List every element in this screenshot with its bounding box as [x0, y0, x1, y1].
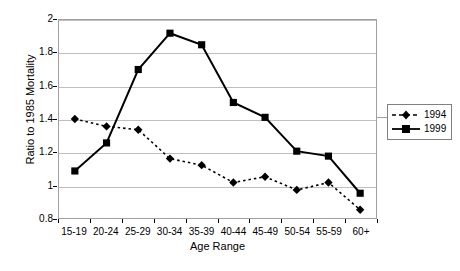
- x-axis-tick-label: 55-59: [316, 226, 342, 237]
- x-axis-tick-label: 15-19: [61, 226, 87, 237]
- x-axis-tick-label: 50-54: [284, 226, 310, 237]
- data-point-marker: [166, 154, 174, 162]
- y-axis-tick-mark: [53, 186, 57, 187]
- data-point-marker: [261, 114, 268, 121]
- data-point-marker: [229, 178, 237, 186]
- data-point-marker: [293, 148, 300, 155]
- y-axis-tick-mark: [53, 152, 57, 153]
- y-axis-tick-mark: [53, 119, 57, 120]
- data-point-marker: [134, 126, 142, 134]
- series-1994: [71, 115, 365, 214]
- y-axis-tick-label: 0.8: [5, 214, 53, 224]
- x-axis-tick-mark: [249, 219, 250, 223]
- series-line: [75, 119, 360, 210]
- y-axis-tick-mark: [53, 86, 57, 87]
- data-point-marker: [230, 99, 237, 106]
- legend-item-1994[interactable]: 1994: [391, 108, 446, 122]
- data-point-marker: [135, 66, 142, 73]
- chart-legend: 1994 1999: [387, 104, 452, 140]
- x-axis-tick-label: 45-49: [253, 226, 279, 237]
- legend-swatch-1999: [391, 123, 421, 135]
- data-point-marker: [198, 41, 205, 48]
- x-axis-tick-mark: [313, 219, 314, 223]
- x-axis-tick-mark: [377, 219, 378, 223]
- data-point-marker: [197, 161, 205, 169]
- legend-swatch-1994: [391, 109, 421, 121]
- series-layer: [59, 20, 376, 218]
- x-axis-tick-mark: [345, 219, 346, 223]
- mortality-ratio-line-chart: 0.811.21.41.61.82 15-1920-2425-2930-3435…: [0, 0, 460, 271]
- x-axis-tick-mark: [281, 219, 282, 223]
- x-axis-tick-mark: [186, 219, 187, 223]
- data-point-marker: [71, 167, 78, 174]
- y-axis-tick-mark: [53, 19, 57, 20]
- legend-label-1994: 1994: [421, 109, 446, 121]
- data-point-marker: [102, 122, 110, 130]
- data-point-marker: [293, 186, 301, 194]
- x-axis-tick-label: 60+: [353, 226, 370, 237]
- x-axis-tick-label: 40-44: [221, 226, 247, 237]
- x-axis-tick-mark: [58, 219, 59, 223]
- data-point-marker: [166, 30, 173, 37]
- x-axis-tick-mark: [122, 219, 123, 223]
- legend-item-1999[interactable]: 1999: [391, 122, 446, 136]
- data-point-marker: [261, 173, 269, 181]
- x-axis-title: Age Range: [58, 240, 377, 253]
- y-axis-tick-mark: [53, 52, 57, 53]
- data-point-marker: [357, 190, 364, 197]
- legend-label-1999: 1999: [421, 123, 446, 135]
- y-axis-tick-mark: [53, 219, 57, 220]
- x-axis-tick-mark: [218, 219, 219, 223]
- plot-area: [58, 19, 377, 219]
- data-point-marker: [103, 139, 110, 146]
- data-point-marker: [71, 115, 79, 123]
- x-axis-tick-mark: [90, 219, 91, 223]
- x-axis-tick-mark: [154, 219, 155, 223]
- series-1999: [71, 30, 363, 197]
- x-axis-tick-label: 35-39: [189, 226, 215, 237]
- data-point-marker: [325, 153, 332, 160]
- x-axis-tick-label: 20-24: [93, 226, 119, 237]
- y-axis-title: Ratio to 1985 Mortality: [24, 10, 37, 210]
- x-axis-tick-label: 25-29: [125, 226, 151, 237]
- x-axis-tick-label: 30-34: [157, 226, 183, 237]
- series-line: [75, 33, 360, 193]
